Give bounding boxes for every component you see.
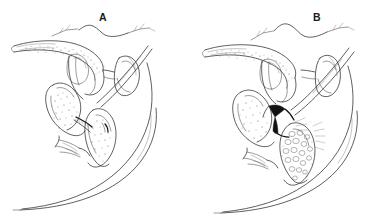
panel-b-stipple-dorsal bbox=[217, 50, 293, 82]
panel-b-oblique-duct bbox=[291, 48, 354, 115]
panel-b-body-wall bbox=[214, 66, 357, 213]
figure-root: A bbox=[0, 0, 383, 224]
panel-a: A bbox=[0, 0, 192, 224]
panel-a-central-loop bbox=[67, 54, 104, 99]
panel-b-hatching bbox=[295, 118, 325, 150]
panel-b-ventral-sac bbox=[233, 90, 274, 147]
panel-b-stipple-ventral bbox=[240, 101, 268, 140]
panel-a-appendages bbox=[55, 136, 90, 157]
panel-a-dorsal-organ bbox=[11, 41, 104, 80]
panel-a-body-wall bbox=[13, 63, 156, 210]
panel-a-right-lobe bbox=[103, 56, 139, 96]
panel-label-b: B bbox=[313, 12, 321, 23]
panel-a-oblique-duct bbox=[97, 46, 152, 107]
panel-label-a: A bbox=[99, 12, 107, 23]
panel-b-upper-branch bbox=[251, 23, 354, 40]
panel-b-lower-vesiculate-organ bbox=[280, 123, 315, 185]
panel-b-central-loop bbox=[260, 59, 296, 104]
panel-a-stipple-ventral bbox=[52, 93, 78, 129]
panel-a-drawing bbox=[0, 0, 192, 224]
panel-a-shaded-junction bbox=[74, 117, 92, 132]
panel-b-appendages bbox=[243, 148, 278, 169]
panel-a-ventral-sac bbox=[46, 83, 85, 136]
panel-b-drawing bbox=[191, 0, 383, 224]
panel-a-lower-organ bbox=[85, 109, 116, 168]
panel-a-stipple-lower bbox=[92, 120, 111, 162]
panel-a-upper-branch bbox=[52, 24, 155, 36]
panel-b-dorsal-organ bbox=[202, 45, 295, 88]
panel-b: B bbox=[191, 0, 383, 224]
